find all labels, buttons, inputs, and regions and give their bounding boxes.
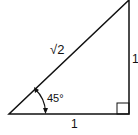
horizontal-leg-label: 1 (71, 117, 78, 131)
right-angle-marker (117, 103, 129, 114)
right-triangle-diagram: √2 1 1 45° (0, 0, 138, 135)
hypotenuse-label: √2 (50, 42, 64, 57)
vertical-leg-label: 1 (132, 52, 138, 66)
arc-arrow-bottom (43, 108, 48, 114)
triangle (9, 0, 129, 114)
angle-label: 45° (47, 92, 64, 104)
